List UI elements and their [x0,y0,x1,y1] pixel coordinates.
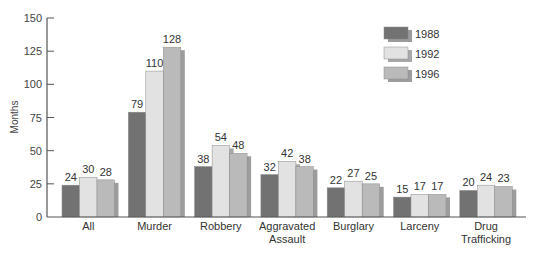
value-label: 48 [232,139,244,151]
value-label: 22 [330,174,342,186]
legend-label: 1992 [415,48,439,60]
bar-1992 [411,194,429,217]
bar-1992 [212,145,230,217]
category-label: Burglary [333,220,374,232]
category-label: Drug [474,220,498,232]
category-label: All [82,220,94,232]
bar-1992 [80,177,98,217]
y-axis-title: Months [9,101,20,134]
legend: 198819921996 [384,27,439,82]
legend-swatch-1996 [384,67,408,79]
y-tick-label: 100 [24,78,42,90]
y-tick-label: 0 [36,211,42,223]
value-label: 79 [131,98,143,110]
legend-swatch-1988 [384,27,408,39]
value-label: 15 [396,183,408,195]
value-label: 23 [497,172,509,184]
bar-1996 [230,153,248,217]
bar-1996 [163,47,181,217]
category-label: Aggravated [259,220,315,232]
category-label: Assault [269,233,305,245]
value-label: 30 [82,163,94,175]
legend-swatch-1992 [384,47,408,59]
value-label: 24 [65,171,77,183]
y-tick-label: 25 [30,178,42,190]
bar-1988 [327,188,345,217]
value-label: 32 [264,161,276,173]
category-label: Robbery [200,220,242,232]
value-label: 20 [462,176,474,188]
bar-chart: 0255075100125150 24302879110128385448324… [0,0,538,253]
bar-1992 [146,71,164,217]
value-label: 110 [146,57,164,69]
bar-1988 [62,185,80,217]
bar-group: 324238 [261,147,318,217]
y-axis: 0255075100125150 [24,12,54,223]
bar-group: 385448 [195,131,252,217]
value-label: 128 [163,33,181,45]
x-axis: AllMurderRobberyAggravatedAssaultBurglar… [47,217,526,245]
value-label: 25 [365,170,377,182]
bar-group: 243028 [62,163,119,217]
y-tick-label: 50 [30,145,42,157]
y-tick-label: 125 [24,45,42,57]
bar-group: 202423 [460,171,517,217]
value-label: 54 [215,131,227,143]
value-label: 24 [480,171,492,183]
bar-1988 [460,190,478,217]
bar-1996 [296,167,314,217]
y-tick-label: 150 [24,12,42,24]
category-label: Larceny [400,220,440,232]
bar-group: 79110128 [128,33,185,217]
value-label: 38 [299,153,311,165]
legend-label: 1988 [415,28,439,40]
bar-1992 [477,185,495,217]
value-label: 27 [347,167,359,179]
bar-1988 [195,167,213,217]
bar-groups: 2430287911012838544832423822272515171720… [62,33,516,217]
value-label: 38 [197,153,209,165]
bar-1996 [495,186,513,217]
bar-group: 151717 [394,180,451,217]
bar-1996 [97,180,115,217]
value-label: 17 [414,180,426,192]
value-label: 28 [100,166,112,178]
bar-group: 222725 [327,167,384,217]
value-label: 17 [431,180,443,192]
bar-1988 [128,112,146,217]
bar-1992 [278,161,296,217]
bar-1996 [362,184,380,217]
category-label: Trafficking [461,233,511,245]
bar-1996 [429,194,447,217]
category-label: Murder [137,220,172,232]
value-label: 42 [281,147,293,159]
bar-1988 [394,197,412,217]
y-tick-label: 75 [30,112,42,124]
bar-1988 [261,175,279,217]
bar-1992 [345,181,363,217]
legend-label: 1996 [415,68,439,80]
